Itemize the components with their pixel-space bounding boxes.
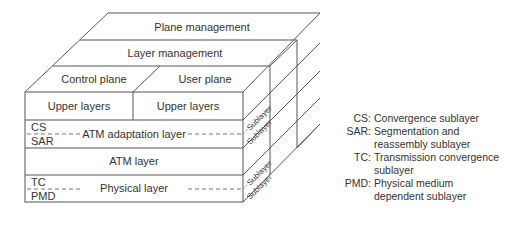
control-plane-label: Control plane — [61, 73, 126, 85]
legend-key: PMD: — [324, 177, 374, 203]
physical-layer-label: Physical layer — [100, 182, 168, 194]
cs-label: CS — [31, 121, 46, 133]
legend-value: Convergence sublayer — [374, 112, 504, 125]
layer-management-label: Layer management — [128, 47, 223, 59]
user-plane-label: User plane — [178, 73, 231, 85]
abbreviation-legend: CS: Convergence sublayer SAR: Segmentati… — [324, 112, 504, 203]
legend-value: Transmission convergence sublayer — [374, 151, 504, 177]
upper-layers-right-label: Upper layers — [157, 100, 220, 112]
atm-layer-label: ATM layer — [109, 155, 159, 167]
upper-layers-left-label: Upper layers — [48, 100, 111, 112]
legend-key: CS: — [324, 112, 374, 125]
legend-item-sar: SAR: Segmentation and reassembly sublaye… — [324, 125, 504, 151]
pmd-label: PMD — [31, 190, 56, 202]
atm-adaptation-layer-label: ATM adaptation layer — [82, 128, 186, 140]
legend-key: TC: — [324, 151, 374, 177]
legend-item-pmd: PMD: Physical medium dependent sublayer — [324, 177, 504, 203]
legend-value: Physical medium dependent sublayer — [374, 177, 504, 203]
sar-label: SAR — [31, 135, 54, 147]
legend-item-tc: TC: Transmission convergence sublayer — [324, 151, 504, 177]
legend-key: SAR: — [324, 125, 374, 151]
legend-item-cs: CS: Convergence sublayer — [324, 112, 504, 125]
tc-label: TC — [31, 176, 46, 188]
plane-management-label: Plane management — [154, 21, 249, 33]
legend-value: Segmentation and reassembly sublayer — [374, 125, 504, 151]
